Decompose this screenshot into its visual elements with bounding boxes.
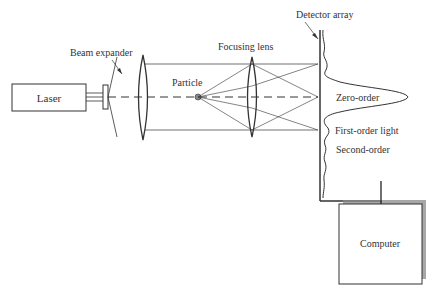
computer: Computer [339,200,426,284]
particle-label: Particle [172,77,203,88]
second-order-label: Second-order [336,144,391,155]
first-order-label: First-order light [335,125,399,136]
detector-array-label: Detector array [296,9,353,20]
laser-label: Laser [37,92,62,104]
beam-expander-label: Beam expander [70,47,133,58]
detector-array-pointer [305,22,318,39]
particle-sizing-diagram: Laser Beam expander Particle [0,0,436,293]
laser: Laser [12,84,86,111]
zero-order-label: Zero-order [336,92,380,103]
laser-output-beam [86,93,103,101]
focusing-lens-label: Focusing lens [218,41,273,52]
computer-label: Computer [360,238,401,249]
intensity-curve [323,30,408,198]
